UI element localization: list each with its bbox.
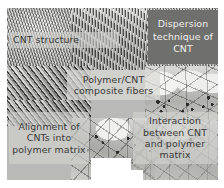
label-dispersion-technique: Dispersion technique of CNT bbox=[148, 10, 218, 64]
notch-cutout bbox=[91, 158, 131, 180]
label-composite-fibers: Polymer/CNT composite fibers bbox=[67, 70, 160, 100]
notch-cutout-right bbox=[131, 170, 143, 180]
label-cnt-polymer-interaction: Interaction between CNT and polymer matr… bbox=[133, 112, 217, 164]
label-cnt-structure: CNT structure bbox=[9, 32, 119, 48]
label-cnt-alignment: Alignment of CNTs into polymer matrix bbox=[9, 112, 89, 164]
composite-figure: CNT structure Dispersion technique of CN… bbox=[7, 8, 218, 180]
